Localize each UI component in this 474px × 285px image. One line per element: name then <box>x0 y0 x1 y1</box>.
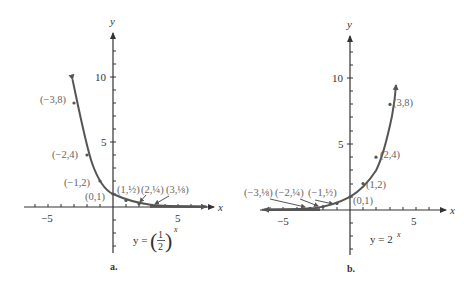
leader-arrow <box>155 196 169 204</box>
point <box>308 207 311 210</box>
y-tick-label-5: 5 <box>101 136 107 148</box>
y-tick-label-5: 5 <box>338 138 344 150</box>
chart-panel-b: x y <box>244 18 455 274</box>
svg-text:x: x <box>173 225 178 234</box>
point <box>335 202 338 205</box>
point-label: (−2,4) <box>52 149 79 161</box>
leader-arrow <box>140 195 146 202</box>
x-axis-label: x <box>449 204 455 216</box>
x-axis-label: x <box>217 201 223 213</box>
point-label: (1,½) <box>117 184 140 196</box>
point-label: (2,¼) <box>141 184 164 196</box>
point <box>361 182 364 185</box>
point <box>137 202 140 205</box>
point <box>85 153 88 156</box>
point-label: (3,⅛) <box>166 184 189 196</box>
equation-b: y = 2 x <box>370 230 401 245</box>
svg-text:(: ( <box>150 228 157 253</box>
chart-panel-a: x y <box>24 15 223 272</box>
point <box>388 103 391 106</box>
point-label: (−1,½) <box>308 187 337 199</box>
figure: x y <box>0 0 474 285</box>
svg-text:1: 1 <box>158 229 163 240</box>
point <box>321 205 324 208</box>
y-axis-label: y <box>109 15 115 27</box>
svg-text:y = 2: y = 2 <box>370 233 393 245</box>
point-label: (−2,¼) <box>275 187 304 199</box>
leader-arrow <box>270 199 305 207</box>
point <box>348 195 351 198</box>
point-label: (−3,⅛) <box>244 187 273 199</box>
point-label: (2,4) <box>380 149 401 161</box>
x-tick-label-neg5: −5 <box>41 212 53 224</box>
svg-text:2: 2 <box>158 241 163 252</box>
point <box>72 101 75 104</box>
point <box>150 204 153 207</box>
point-label: (1,2) <box>366 179 387 191</box>
equation-a: y = ( 1 2 ) x <box>133 225 178 253</box>
svg-text:y =: y = <box>133 234 147 246</box>
point-label: (−3,8) <box>40 94 67 106</box>
svg-text:x: x <box>396 230 401 239</box>
point <box>124 199 127 202</box>
svg-text:): ) <box>165 228 172 253</box>
point <box>98 179 101 182</box>
point-label: (3,8) <box>393 97 414 109</box>
point-label: (0,1) <box>85 191 106 203</box>
point-label: (0,1) <box>353 195 374 207</box>
point <box>374 156 377 159</box>
x-tick-label-neg5: −5 <box>277 215 289 227</box>
y-tick-label-10: 10 <box>332 72 344 84</box>
panel-caption-a: a. <box>110 261 118 272</box>
x-tick-label-5: 5 <box>411 215 417 227</box>
y-tick-label-10: 10 <box>95 71 107 83</box>
leader-arrow <box>315 200 333 204</box>
point <box>111 192 114 195</box>
panel-caption-b: b. <box>347 263 356 274</box>
point-label: (−1,2) <box>64 177 91 189</box>
y-axis-label: y <box>346 18 352 30</box>
x-tick-label-5: 5 <box>175 212 181 224</box>
